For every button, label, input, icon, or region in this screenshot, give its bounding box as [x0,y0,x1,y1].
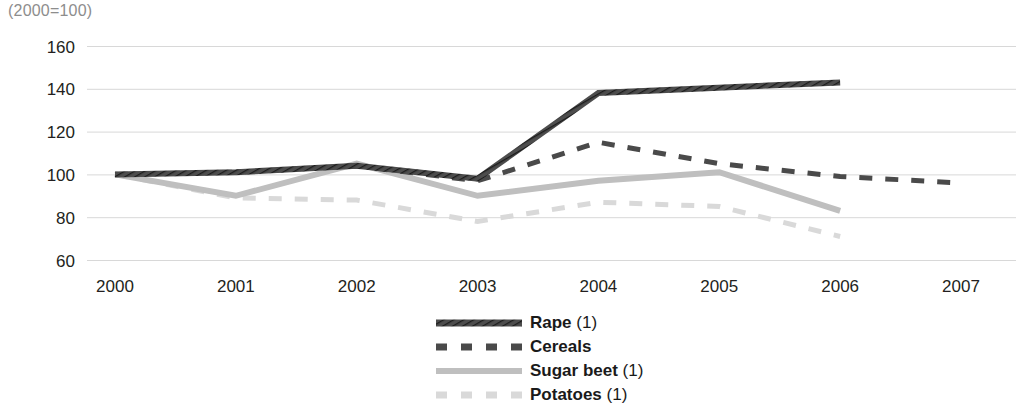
ytick-label-140: 140 [47,80,75,99]
chart-root: (2000=100) 60801001201401602000200120022… [0,0,1028,416]
xtick-label-2000: 2000 [96,277,134,296]
chart-legend: Rape (1)CerealsSugar beet (1)Potatoes (1… [436,311,756,407]
ytick-label-120: 120 [47,123,75,142]
legend-item-sugar-beet-label: Sugar beet (1) [530,361,643,381]
legend-item-cereals[interactable]: Cereals [436,335,756,359]
xtick-label-2004: 2004 [580,277,618,296]
ytick-label-160: 160 [47,38,75,57]
legend-item-cereals-swatch [436,336,522,358]
line-chart-plot: 6080100120140160200020012002200320042005… [0,0,1028,310]
xtick-label-2003: 2003 [459,277,497,296]
series-line-cereals [115,142,961,183]
ytick-label-60: 60 [56,252,75,271]
xtick-label-2007: 2007 [942,277,980,296]
xtick-label-2006: 2006 [821,277,859,296]
legend-item-rape-swatch [436,312,522,334]
ytick-label-100: 100 [47,166,75,185]
legend-item-rape[interactable]: Rape (1) [436,311,756,335]
ytick-label-80: 80 [56,209,75,228]
legend-item-potatoes-swatch [436,384,522,406]
legend-item-potatoes-label: Potatoes (1) [530,385,627,405]
legend-item-rape-label: Rape (1) [530,313,597,333]
series-line-potatoes-1 [115,174,840,236]
xtick-label-2005: 2005 [700,277,738,296]
legend-item-sugar-beet[interactable]: Sugar beet (1) [436,359,756,383]
xtick-label-2002: 2002 [338,277,376,296]
legend-item-cereals-label: Cereals [530,337,591,357]
legend-item-sugar-beet-swatch [436,360,522,382]
legend-item-potatoes[interactable]: Potatoes (1) [436,383,756,407]
xtick-label-2001: 2001 [217,277,255,296]
